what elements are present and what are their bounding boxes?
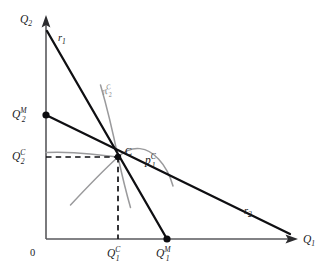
label-isoprofit-firm2: πC2: [101, 83, 114, 100]
origin-label: 0: [30, 247, 35, 258]
tick-q1c-sub: 1: [116, 254, 120, 263]
tick-label-q1-monopoly: QM1: [156, 245, 171, 262]
tick-label-q1-cournot: QC1: [107, 245, 121, 262]
x-axis-title: Q1: [303, 233, 315, 248]
tick-q2m-sub: 2: [22, 115, 26, 124]
marker-dots-group: [42, 111, 170, 242]
label-pi2c-sup: C: [105, 83, 112, 91]
label-pi2c-sub: 2: [108, 90, 114, 98]
label-p1c-sub: 1: [152, 161, 156, 170]
axis-titles-group: Q2 Q1 0: [20, 13, 315, 258]
label-reaction-r2: r2: [244, 205, 252, 219]
tick-q1m-sub: 1: [166, 254, 170, 263]
y-axis-title: Q2: [20, 13, 32, 28]
tick-q2c-sub: 2: [21, 157, 25, 166]
diagram-canvas: Q2 Q1 0 QM2 QC2 QC1 Q: [0, 0, 326, 276]
equilibrium-guides-group: [46, 157, 118, 239]
label-reaction-r1: r1: [58, 32, 66, 46]
curve-annotations-group: r1 r2 πC2 pC1 C: [58, 32, 252, 219]
tick-label-q2-monopoly: QM2: [12, 106, 27, 123]
reaction-function-r2: [46, 115, 290, 234]
dot-q2-monopoly: [42, 111, 49, 118]
label-r2-sub: 2: [248, 210, 252, 219]
dot-equilibrium-c: [115, 154, 121, 160]
label-equilibrium-point: C: [125, 146, 132, 157]
y-axis-title-sub: 2: [28, 19, 32, 28]
cournot-duopoly-diagram: Q2 Q1 0 QM2 QC2 QC1 Q: [0, 0, 326, 276]
reaction-function-r1: [47, 31, 167, 239]
x-axis-title-sub: 1: [311, 239, 315, 248]
label-r1-sub: 1: [62, 37, 66, 46]
reaction-functions-group: [46, 31, 290, 239]
axes-group: [42, 15, 298, 243]
tick-label-q2-cournot: QC2: [12, 148, 26, 165]
dot-q1-monopoly: [163, 235, 170, 242]
